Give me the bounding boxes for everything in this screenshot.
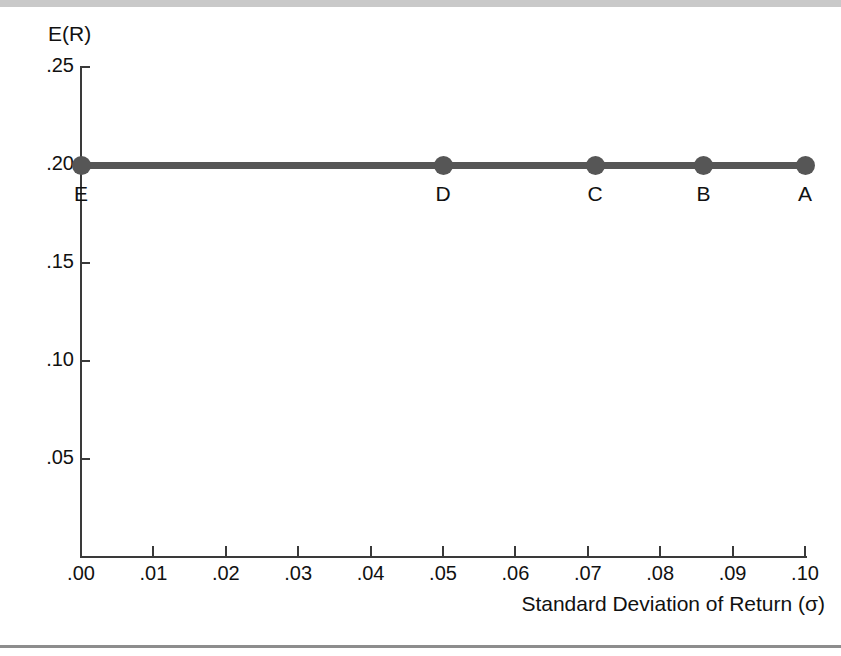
- y-axis-tick: [80, 66, 90, 68]
- data-point-label: D: [423, 182, 463, 206]
- y-axis-tick-label: .20: [14, 152, 74, 175]
- data-point-marker[interactable]: [434, 156, 453, 175]
- x-axis-tick-label: .04: [341, 562, 401, 585]
- data-point-label: C: [575, 182, 615, 206]
- y-axis-title: E(R): [48, 22, 91, 46]
- y-axis-line: [80, 66, 82, 558]
- x-axis-tick: [225, 546, 227, 556]
- x-axis-tick: [80, 546, 82, 556]
- data-point-marker[interactable]: [694, 156, 713, 175]
- x-axis-tick-label: .00: [51, 562, 111, 585]
- y-axis-tick: [80, 458, 90, 460]
- data-point-label: B: [684, 182, 724, 206]
- x-axis-tick: [152, 546, 154, 556]
- y-axis-tick-label: .25: [14, 54, 74, 77]
- bottom-divider-rule: [0, 645, 841, 648]
- data-point-marker[interactable]: [72, 156, 91, 175]
- x-axis-tick-label: .07: [558, 562, 618, 585]
- x-axis-tick-label: .01: [123, 562, 183, 585]
- data-point-marker[interactable]: [586, 156, 605, 175]
- data-point-label: E: [61, 182, 101, 206]
- x-axis-tick-label: .09: [703, 562, 763, 585]
- x-axis-tick: [297, 546, 299, 556]
- x-axis-tick-label: .05: [413, 562, 473, 585]
- y-axis-tick: [80, 360, 90, 362]
- x-axis-tick: [659, 546, 661, 556]
- x-axis-tick-label: .02: [196, 562, 256, 585]
- y-axis-tick-label: .15: [14, 250, 74, 273]
- x-axis-tick: [370, 546, 372, 556]
- x-axis-tick: [442, 546, 444, 556]
- x-axis-tick: [587, 546, 589, 556]
- x-axis-tick: [804, 546, 806, 556]
- chart-plot-area: .25.20.15.10.05 .00.01.02.03.04.05.06.07…: [0, 0, 841, 656]
- x-axis-tick-label: .03: [268, 562, 328, 585]
- x-axis-tick-label: .06: [485, 562, 545, 585]
- x-axis-tick-label: .08: [630, 562, 690, 585]
- y-axis-tick-label: .05: [14, 446, 74, 469]
- x-axis-tick: [514, 546, 516, 556]
- x-axis-title: Standard Deviation of Return (σ): [0, 592, 825, 616]
- x-axis-line: [80, 556, 807, 558]
- x-axis-tick-label: .10: [775, 562, 835, 585]
- y-axis-tick-label: .10: [14, 348, 74, 371]
- data-point-marker[interactable]: [796, 156, 815, 175]
- x-axis-tick: [732, 546, 734, 556]
- data-point-label: A: [785, 182, 825, 206]
- y-axis-tick: [80, 262, 90, 264]
